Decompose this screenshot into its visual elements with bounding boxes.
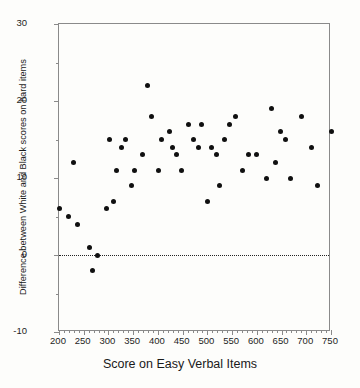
x-axis-tick-minor [64, 330, 65, 333]
x-axis-tick-minor [153, 330, 154, 333]
data-point [246, 152, 251, 157]
x-axis-tick-minor [79, 330, 80, 333]
data-point [145, 83, 150, 88]
data-point [209, 145, 214, 150]
data-point [149, 114, 154, 119]
x-axis-tick-minor [94, 330, 95, 333]
x-axis-tick-minor [237, 330, 238, 333]
x-axis-tick-minor [193, 330, 194, 333]
x-axis-tick-minor [197, 330, 198, 333]
x-axis-tick-minor [69, 330, 70, 333]
x-axis-tick-minor [89, 330, 90, 333]
x-axis-tick-minor [212, 330, 213, 333]
data-point [123, 137, 128, 142]
x-axis-tick-minor [267, 330, 268, 333]
x-axis-tick-label: 750 [310, 336, 350, 346]
data-point [132, 168, 137, 173]
y-axis-tick-minor [56, 217, 59, 218]
data-point [269, 106, 274, 111]
scatter-plot-figure: -100102030200250300350400450500550600650… [0, 0, 360, 388]
data-point [196, 145, 201, 150]
data-point [107, 137, 112, 142]
x-axis-tick-minor [316, 330, 317, 333]
x-axis-tick-minor [286, 330, 287, 333]
x-axis-tick-minor [143, 330, 144, 333]
data-point [71, 160, 76, 165]
x-axis-tick-minor [242, 330, 243, 333]
x-axis-tick-minor [227, 330, 228, 333]
x-axis-tick-minor [163, 330, 164, 333]
x-axis-tick-minor [202, 330, 203, 333]
x-axis-tick-minor [296, 330, 297, 333]
data-point [66, 214, 71, 219]
data-point [57, 206, 62, 211]
data-point [299, 114, 304, 119]
x-axis-tick-minor [138, 330, 139, 333]
data-point [205, 199, 210, 204]
y-axis-title: Difference between White and Black score… [18, 23, 32, 331]
x-axis-tick-minor [326, 330, 327, 333]
x-axis-title: Score on Easy Verbal Items [0, 357, 360, 371]
data-point [309, 145, 314, 150]
plot-area [58, 23, 330, 331]
x-axis-tick-minor [104, 330, 105, 333]
x-axis-tick-minor [277, 330, 278, 333]
data-point [104, 206, 109, 211]
x-axis-tick-minor [118, 330, 119, 333]
data-point [159, 137, 164, 142]
data-point [278, 129, 283, 134]
y-axis-tick-major [54, 178, 59, 179]
x-axis-tick-minor [291, 330, 292, 333]
y-axis-tick-minor [56, 63, 59, 64]
data-point [240, 168, 245, 173]
data-point [167, 129, 172, 134]
data-point [156, 168, 161, 173]
x-axis-tick-minor [321, 330, 322, 333]
data-point [140, 152, 145, 157]
data-point [87, 245, 92, 250]
data-point [227, 122, 232, 127]
x-axis-tick-minor [217, 330, 218, 333]
data-point [233, 114, 238, 119]
data-point [273, 160, 278, 165]
y-axis-tick-minor [56, 294, 59, 295]
x-axis-tick-minor [173, 330, 174, 333]
x-axis-tick-minor [188, 330, 189, 333]
data-point [129, 183, 134, 188]
data-point [217, 183, 222, 188]
x-axis-tick-minor [99, 330, 100, 333]
x-axis-tick-minor [74, 330, 75, 333]
data-point [254, 152, 259, 157]
x-axis-tick-minor [123, 330, 124, 333]
data-point [288, 176, 293, 181]
x-axis-tick-minor [311, 330, 312, 333]
x-axis-tick-minor [222, 330, 223, 333]
y-axis-tick-minor [56, 140, 59, 141]
data-point [214, 152, 219, 157]
x-axis-tick-minor [148, 330, 149, 333]
x-axis-tick-minor [178, 330, 179, 333]
data-point [186, 122, 191, 127]
x-axis-tick-minor [247, 330, 248, 333]
data-point [222, 137, 227, 142]
data-point [179, 168, 184, 173]
x-axis-tick-minor [272, 330, 273, 333]
data-point [119, 145, 124, 150]
x-axis-tick-minor [168, 330, 169, 333]
x-axis-tick-minor [128, 330, 129, 333]
data-point [174, 152, 179, 157]
data-point [114, 168, 119, 173]
data-point [264, 176, 269, 181]
x-axis-tick-minor [113, 330, 114, 333]
data-point [95, 253, 100, 258]
data-point [283, 137, 288, 142]
y-axis-tick-major [54, 24, 59, 25]
data-point [191, 137, 196, 142]
data-point [329, 129, 334, 134]
x-axis-tick-minor [301, 330, 302, 333]
data-point [90, 268, 95, 273]
data-point [315, 183, 320, 188]
y-axis-tick-major [54, 101, 59, 102]
data-point [170, 145, 175, 150]
data-point [75, 222, 80, 227]
